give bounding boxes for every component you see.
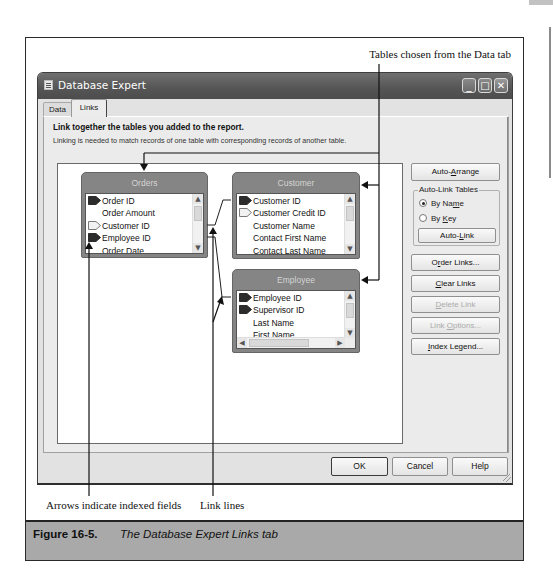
auto-arrange-button[interactable]: Auto-Arrange — [411, 163, 500, 181]
field-row[interactable]: Contact Last Name — [237, 245, 344, 255]
index-arrow-icon — [239, 318, 252, 327]
close-icon: ✕ — [497, 80, 505, 91]
field-name: Contact First Name — [253, 233, 326, 243]
table-box-employee[interactable]: Employee Employee ID Supervisor ID Last … — [232, 269, 360, 353]
figure-caption-bar: Figure 16-5. The Database Expert Links t… — [26, 520, 523, 560]
table-title[interactable]: Employee — [233, 270, 359, 290]
field-name: Employee ID — [253, 293, 302, 303]
page: Figure 16-5. The Database Expert Links t… — [0, 0, 553, 584]
scroll-down-icon[interactable]: ▼ — [193, 243, 203, 253]
scroll-right-icon[interactable]: ▶ — [335, 338, 345, 348]
scroll-thumb[interactable] — [194, 206, 202, 221]
label-part: ey — [448, 214, 456, 223]
maximize-button[interactable]: □ — [478, 78, 492, 93]
table-box-customer[interactable]: Customer Customer ID Customer Credit ID … — [232, 172, 360, 259]
tab-data[interactable]: Data — [43, 102, 72, 116]
scroll-up-icon[interactable]: ▲ — [193, 194, 203, 204]
order-links-button[interactable]: Order Links... — [411, 254, 500, 271]
scroll-up-icon[interactable]: ▲ — [345, 291, 355, 301]
field-name: Order ID — [102, 196, 135, 206]
field-name: Order Amount — [102, 208, 155, 218]
field-row[interactable]: Contact First Name — [237, 232, 344, 244]
radio-icon[interactable] — [419, 199, 427, 207]
index-arrow-icon — [88, 246, 101, 254]
label-part: rrange — [456, 167, 479, 176]
link-options-button[interactable]: Link Options... — [411, 317, 500, 334]
label-part: Link — [430, 321, 447, 330]
ok-button[interactable]: OK — [331, 457, 388, 476]
close-button[interactable]: ✕ — [494, 78, 508, 93]
scroll-down-icon[interactable]: ▼ — [345, 328, 355, 338]
label-part: ndex Legend... — [430, 342, 483, 351]
index-arrow-icon — [239, 208, 252, 217]
auto-link-button[interactable]: Auto-Link — [418, 228, 496, 243]
title-bar[interactable]: Database Expert _ □ ✕ — [38, 73, 512, 99]
minimize-button[interactable]: _ — [462, 78, 476, 93]
resize-grip-icon[interactable] — [503, 474, 511, 482]
scroll-down-icon[interactable]: ▼ — [345, 244, 355, 254]
help-button[interactable]: Help — [452, 457, 508, 476]
label-part: ptions... — [453, 321, 481, 330]
scroll-left-icon[interactable]: ◀ — [237, 338, 247, 348]
field-row[interactable]: Supervisor ID — [237, 304, 344, 316]
links-canvas[interactable]: Orders Order ID Order Amount Customer ID… — [57, 163, 403, 444]
scroll-up-icon[interactable]: ▲ — [345, 194, 355, 204]
horizontal-scrollbar[interactable]: ◀ ▶ — [237, 337, 345, 348]
callout-link-lines: Link lines — [200, 499, 244, 511]
field-row[interactable]: Customer ID — [237, 195, 344, 207]
window-title: Database Expert — [58, 79, 146, 91]
index-legend-button[interactable]: Index Legend... — [411, 338, 500, 355]
field-name: Customer Credit ID — [253, 208, 326, 218]
group-title: Auto-Link Tables — [418, 185, 479, 194]
label-part: der Links... — [440, 258, 479, 267]
scroll-thumb[interactable] — [249, 339, 309, 347]
index-arrow-icon — [88, 196, 101, 205]
table-title[interactable]: Orders — [82, 173, 207, 193]
field-row[interactable]: Customer ID — [86, 220, 192, 232]
by-key-radio[interactable]: By Key — [419, 214, 456, 223]
field-list: Customer ID Customer Credit ID Customer … — [236, 193, 356, 255]
vertical-scrollbar[interactable]: ▲ ▼ — [192, 194, 203, 253]
field-row[interactable]: Customer Credit ID — [237, 207, 344, 219]
field-list: Order ID Order Amount Customer ID Employ… — [85, 193, 204, 254]
index-arrow-icon — [88, 221, 101, 230]
panel-heading: Link together the tables you added to th… — [53, 122, 244, 132]
callout-indexed-arrows: Arrows indicate indexed fields — [46, 499, 181, 511]
field-name: Employee ID — [102, 233, 151, 243]
cancel-button[interactable]: Cancel — [392, 457, 448, 476]
index-arrow-icon — [88, 208, 101, 217]
field-row[interactable]: Employee ID — [86, 232, 192, 244]
scroll-thumb[interactable] — [346, 206, 354, 221]
field-row[interactable]: Last Name — [237, 317, 344, 329]
vertical-scrollbar[interactable]: ▲ ▼ — [344, 194, 355, 254]
by-name-radio[interactable]: By Name — [419, 199, 464, 208]
field-list: Employee ID Supervisor ID Last Name Firs… — [236, 290, 356, 349]
index-arrow-icon — [239, 305, 252, 314]
clear-links-button[interactable]: Clear Links — [411, 275, 500, 292]
label-part: e — [459, 199, 463, 208]
tab-links[interactable]: Links — [71, 99, 107, 117]
field-name: Contact Last Name — [253, 246, 326, 255]
delete-link-button[interactable]: Delete Link — [411, 296, 500, 313]
field-row[interactable]: Order ID — [86, 195, 192, 207]
table-title[interactable]: Customer — [233, 173, 359, 193]
scroll-thumb[interactable] — [346, 303, 354, 318]
field-row[interactable]: Customer Name — [237, 220, 344, 232]
field-row[interactable]: Order Date — [86, 245, 192, 254]
table-box-orders[interactable]: Orders Order ID Order Amount Customer ID… — [81, 172, 208, 258]
size-grip — [345, 338, 355, 348]
panel-description: Linking is needed to match records of on… — [53, 136, 346, 145]
field-name: Customer ID — [253, 196, 301, 206]
maximize-icon: □ — [480, 80, 489, 91]
label-part: lear Links — [441, 279, 475, 288]
field-row[interactable]: Order Amount — [86, 207, 192, 219]
field-name: Customer Name — [253, 221, 315, 231]
label-part: Auto- — [432, 167, 451, 176]
field-row[interactable]: Employee ID — [237, 292, 344, 304]
index-arrow-icon — [239, 246, 252, 255]
callout-tables-chosen: Tables chosen from the Data tab — [369, 48, 511, 60]
figure-number: Figure 16-5. — [33, 528, 98, 540]
radio-icon[interactable] — [419, 214, 427, 222]
page-edge-tab — [529, 0, 553, 5]
vertical-scrollbar[interactable]: ▲ ▼ — [344, 291, 355, 338]
